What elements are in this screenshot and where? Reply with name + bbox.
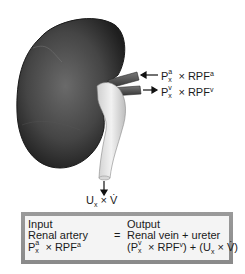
times-sign: × <box>148 241 154 253</box>
mass-balance-box: Input Renal artery Pax × RPFa = Output R… <box>21 212 233 264</box>
vein-outflow-arrow <box>143 87 157 93</box>
u-symbol: U <box>86 194 94 206</box>
times-sign: × <box>218 241 224 253</box>
input-formula: Pax × RPFa <box>28 240 88 253</box>
times-sign: × <box>178 86 184 98</box>
rpf-sup: v <box>210 86 214 93</box>
sub-x: x <box>94 201 98 208</box>
artery-inflow-arrow <box>141 72 158 78</box>
paren-close: ) <box>183 241 187 253</box>
arterial-flux-label: Pax × RPFa <box>161 68 214 82</box>
p-indices: vx <box>138 242 145 252</box>
sub-x: x <box>168 76 172 83</box>
sub-x: x <box>211 248 215 255</box>
input-column: Input Renal artery Pax × RPFa <box>28 219 88 253</box>
times-sign: × <box>45 241 51 253</box>
p-indices: ax <box>168 71 175 81</box>
urine-outflow-arrow <box>101 181 107 195</box>
p-symbol: P <box>28 241 35 253</box>
equals-sign: = <box>114 230 120 241</box>
p-indices: vx <box>168 87 175 97</box>
sup-v: v <box>138 239 142 246</box>
input-title: Input <box>28 219 88 230</box>
sup-v: v <box>168 84 172 91</box>
u-symbol: U <box>203 241 211 253</box>
p-symbol: P <box>131 241 138 253</box>
rpf-sup: a <box>77 241 81 248</box>
p-indices: ax <box>35 242 42 252</box>
rpf-symbol: RPF <box>158 241 180 253</box>
times-sign: × <box>101 194 107 206</box>
sub-x: x <box>138 247 142 254</box>
paren-close: ) <box>234 241 238 253</box>
sub-x: x <box>35 247 39 254</box>
output-title: Output <box>127 219 238 230</box>
rpf-sup: a <box>210 70 214 77</box>
mass-balance-box-inner: Input Renal artery Pax × RPFa = Output R… <box>25 216 229 260</box>
output-column: Output Renal vein + ureter (Pvx × RPFv) … <box>127 219 238 258</box>
plus-sign: + <box>190 241 196 253</box>
times-sign: × <box>178 70 184 82</box>
rpf-symbol: RPF <box>188 86 210 98</box>
sub-x: x <box>168 92 172 99</box>
kidney-illustration <box>0 0 245 210</box>
output-formula: (Pvx × RPFv) + (Ux × V̇) <box>127 240 238 258</box>
sup-a: a <box>35 239 39 246</box>
output-source: Renal vein + ureter <box>127 230 238 241</box>
p-symbol: P <box>161 70 168 82</box>
sup-a: a <box>168 68 172 75</box>
p-symbol: P <box>161 86 168 98</box>
rpf-symbol: RPF <box>188 70 210 82</box>
venous-flux-label: Pvx × RPFv <box>161 84 213 98</box>
v-dot-symbol: V̇ <box>110 194 117 206</box>
urine-flux-label: Ux × V̇ <box>86 194 117 211</box>
rpf-symbol: RPF <box>55 241 77 253</box>
